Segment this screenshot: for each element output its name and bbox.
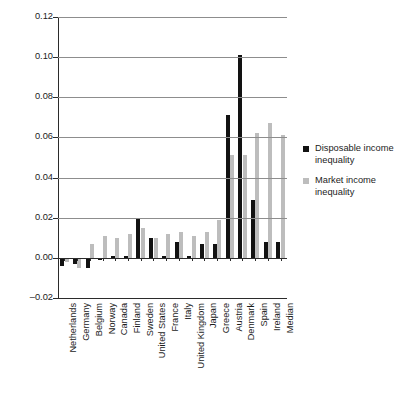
bar-market-sweden (141, 228, 145, 258)
x-axis-label-denmark: Denmark (246, 303, 256, 340)
x-axis-labels: NetherlandsGermanyBelgiumNorwayCanadaFin… (58, 303, 287, 393)
x-axis-label-canada: Canada (119, 303, 129, 335)
bar-disposable-greece (213, 244, 217, 258)
legend-swatch-icon-disposable (303, 146, 309, 152)
bar-disposable-sweden (136, 218, 140, 258)
bar-disposable-denmark (238, 55, 242, 258)
bar-market-united-states (154, 238, 158, 258)
x-axis-label-italy: Italy (183, 303, 193, 320)
y-axis-tick (53, 137, 58, 138)
x-axis-label-france: France (170, 303, 180, 332)
bar-market-spain (255, 133, 259, 257)
x-axis-label-japan: Japan (208, 303, 218, 328)
bar-market-ireland (268, 123, 272, 257)
bar-market-italy (179, 232, 183, 258)
y-axis-tick-label: 0.08 (5, 92, 53, 101)
legend-label-disposable-line2: inequality (315, 155, 354, 165)
plot-area (58, 17, 287, 298)
legend-label-market-line1: Market income (315, 175, 376, 185)
bar-market-united-kingdom (192, 236, 196, 258)
x-axis-label-norway: Norway (107, 303, 117, 334)
bar-disposable-japan (200, 244, 204, 258)
x-axis-label-spain: Spain (259, 303, 269, 327)
x-axis-label-finland: Finland (132, 303, 142, 333)
y-axis-tick-label: 0.10 (5, 52, 53, 61)
bar-market-denmark (243, 155, 247, 257)
y-axis-labels: 0.120.100.080.060.040.020.00–0.02 (0, 0, 53, 393)
bar-market-france (166, 234, 170, 258)
y-axis-tick-label: 0.06 (5, 132, 53, 141)
bar-disposable-median (276, 242, 280, 258)
bar-market-finland (128, 234, 132, 258)
y-axis-tick-label: 0.02 (5, 213, 53, 222)
bar-market-canada (115, 238, 119, 258)
x-axis-label-united-kingdom: United Kingdom (196, 303, 206, 368)
y-axis-tick (53, 218, 58, 219)
gridline (58, 57, 287, 58)
bar-disposable-united-states (149, 238, 153, 258)
y-axis-tick-label: 0.00 (5, 253, 53, 262)
y-axis-tick-label: –0.02 (5, 293, 53, 302)
x-axis-label-united-states: United States (157, 303, 167, 358)
bar-market-japan (205, 232, 209, 258)
legend-item-disposable-income: Disposable income inequality (303, 143, 408, 166)
gridline (58, 218, 287, 219)
grouped-bar-chart: 0.120.100.080.060.040.020.00–0.02 Nether… (0, 0, 411, 393)
x-axis-label-ireland: Ireland (272, 303, 282, 331)
bar-disposable-italy (175, 242, 179, 258)
y-axis-tick (53, 57, 58, 58)
y-axis-tick (53, 17, 58, 18)
gridline (58, 97, 287, 98)
gridline (58, 258, 287, 259)
legend-label-market-line2: inequality (315, 187, 354, 197)
legend-item-market-income: Market income inequality (303, 175, 408, 198)
gridline (58, 137, 287, 138)
y-axis-tick-label: 0.12 (5, 12, 53, 21)
x-axis-label-belgium: Belgium (94, 303, 104, 336)
gridline (58, 178, 287, 179)
y-axis-tick (53, 258, 58, 259)
chart-legend: Disposable income inequality Market inco… (303, 143, 408, 207)
bar-market-norway (103, 236, 107, 258)
x-axis-label-austria: Austria (234, 303, 244, 332)
bar-disposable-ireland (264, 242, 268, 258)
bar-market-austria (230, 155, 234, 257)
bar-market-median (281, 135, 285, 257)
x-axis-label-netherlands: Netherlands (68, 303, 78, 353)
bar-market-greece (217, 220, 221, 258)
legend-swatch-icon-market (303, 178, 309, 184)
y-axis-tick (53, 298, 58, 299)
legend-label-disposable-line1: Disposable income (315, 143, 394, 153)
x-axis-label-germany: Germany (81, 303, 91, 341)
y-axis-tick-label: 0.04 (5, 173, 53, 182)
y-axis-tick (53, 97, 58, 98)
bars-layer (58, 17, 287, 298)
gridline (58, 17, 287, 18)
y-axis-tick (53, 178, 58, 179)
x-axis-label-sweden: Sweden (145, 303, 155, 336)
bar-market-belgium (90, 244, 94, 258)
bar-disposable-spain (251, 200, 255, 258)
x-axis-label-median: Median (285, 303, 295, 333)
x-axis-label-greece: Greece (221, 303, 231, 333)
gridline (58, 298, 287, 299)
